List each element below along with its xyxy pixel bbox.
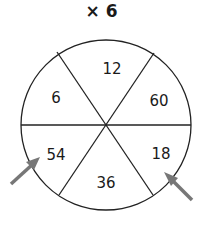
segment-label-top: 12 <box>102 60 121 78</box>
arrow-icon-right <box>164 172 192 200</box>
arrow-icon-left <box>11 157 40 184</box>
segment-label-bottom: 36 <box>96 174 115 192</box>
segment-label-top-left: 6 <box>51 89 61 107</box>
segment-label-bottom-right: 18 <box>151 145 170 163</box>
segment-label-top-right: 60 <box>149 92 168 110</box>
segment-label-bottom-left: 54 <box>46 146 65 164</box>
